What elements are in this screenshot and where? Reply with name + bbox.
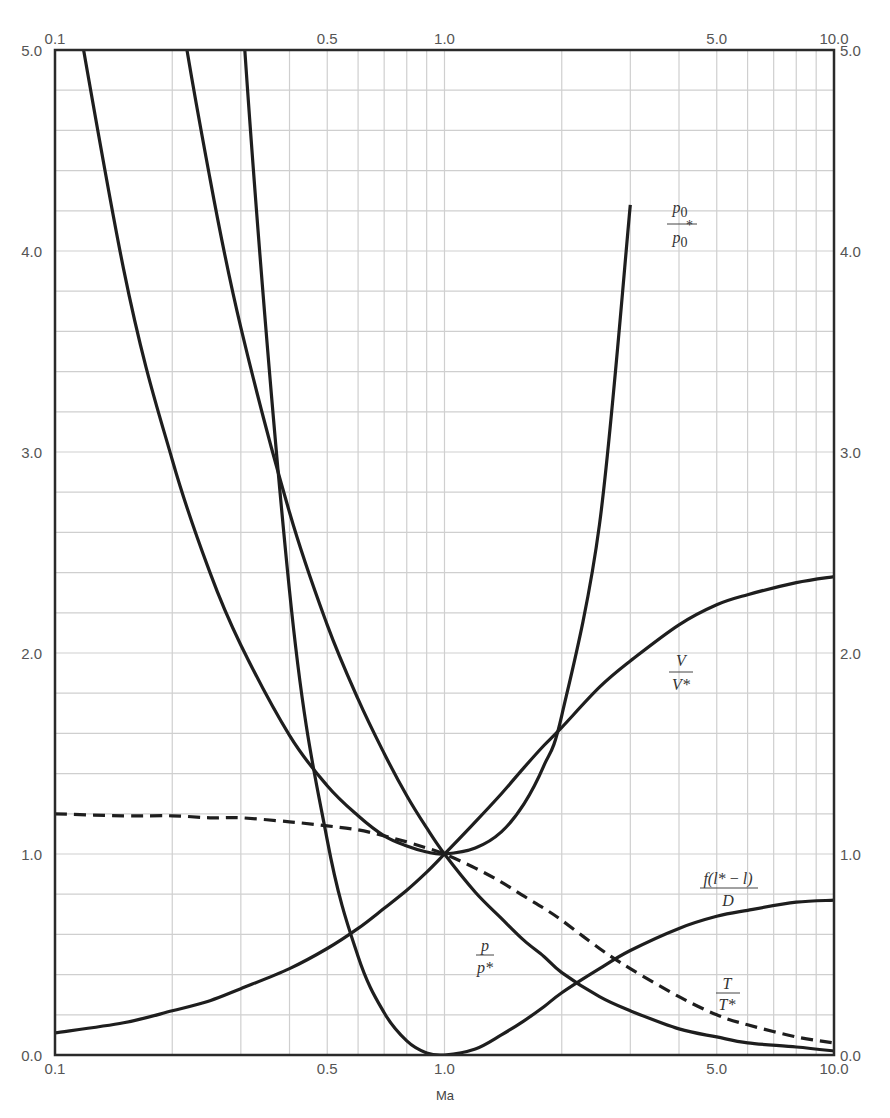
svg-text:p*: p* bbox=[476, 959, 493, 977]
x-tick-label-top: 0.5 bbox=[317, 30, 338, 47]
x-tick-label-bottom: 0.1 bbox=[45, 1060, 66, 1077]
y-tick-label-left: 3.0 bbox=[21, 444, 42, 461]
x-tick-label-bottom: 5.0 bbox=[706, 1060, 727, 1077]
x-axis-label: Ma bbox=[436, 1088, 455, 1103]
y-tick-label-left: 1.0 bbox=[21, 846, 42, 863]
fanno-flow-chart: 0.10.10.50.51.01.05.05.010.010.00.00.01.… bbox=[0, 0, 890, 1118]
y-tick-label-right: 0.0 bbox=[840, 1047, 861, 1064]
svg-text:f(l* − l): f(l* − l) bbox=[703, 870, 752, 888]
grid bbox=[55, 50, 834, 1055]
y-tick-label-left: 4.0 bbox=[21, 243, 42, 260]
x-tick-label-bottom: 0.5 bbox=[317, 1060, 338, 1077]
svg-text:*: * bbox=[686, 218, 693, 233]
y-tick-label-right: 2.0 bbox=[840, 645, 861, 662]
label-p-ratio: p p* bbox=[476, 937, 494, 977]
x-tick-label-top: 5.0 bbox=[706, 30, 727, 47]
y-tick-label-left: 2.0 bbox=[21, 645, 42, 662]
x-tick-label-bottom: 1.0 bbox=[434, 1060, 455, 1077]
y-tick-label-right: 1.0 bbox=[840, 846, 861, 863]
curve-p0-p0- bbox=[55, 0, 630, 854]
svg-text:p: p bbox=[480, 937, 489, 955]
svg-text:T*: T* bbox=[719, 996, 736, 1013]
y-tick-label-right: 3.0 bbox=[840, 444, 861, 461]
y-tick-label-right: 5.0 bbox=[840, 42, 861, 59]
svg-text:T: T bbox=[723, 975, 733, 992]
label-p0-ratio: p0 p0 * bbox=[667, 199, 697, 250]
label-v-ratio: V V* bbox=[669, 652, 693, 693]
axis-ticks: 0.10.10.50.51.01.05.05.010.010.00.00.01.… bbox=[21, 30, 861, 1077]
label-t-ratio: T T* bbox=[716, 975, 740, 1013]
svg-text:V: V bbox=[676, 652, 688, 669]
label-friction-length: f(l* − l) D bbox=[700, 870, 758, 909]
y-tick-label-left: 0.0 bbox=[21, 1047, 42, 1064]
x-tick-label-top: 1.0 bbox=[434, 30, 455, 47]
svg-text:V*: V* bbox=[672, 676, 690, 693]
x-tick-label-top: 0.1 bbox=[45, 30, 66, 47]
svg-text:D: D bbox=[721, 892, 734, 909]
y-tick-label-left: 5.0 bbox=[21, 42, 42, 59]
y-tick-label-right: 4.0 bbox=[840, 243, 861, 260]
